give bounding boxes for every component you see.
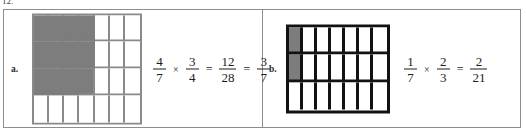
grid-cell: [317, 55, 331, 83]
multiply-operator-b: ×: [418, 63, 436, 74]
grid-cell: [110, 42, 125, 69]
grid-cell: [373, 82, 387, 110]
grid-cell: [79, 69, 94, 96]
fraction-a-factor1: 4 7: [153, 54, 166, 83]
grid-cell: [79, 95, 94, 122]
grid-cell: [331, 82, 345, 110]
grid-cell: [317, 82, 331, 110]
grid-cell: [303, 55, 317, 83]
numerator: 3: [187, 54, 198, 68]
problem-number: 12.: [2, 0, 13, 6]
denominator: 4: [187, 69, 198, 83]
grid-cell: [373, 55, 387, 83]
grid-cell: [289, 27, 303, 55]
grid-cell: [34, 69, 49, 96]
grid-cell: [34, 95, 49, 122]
grid-cell: [303, 27, 317, 55]
grid-cell: [79, 42, 94, 69]
equals-sign-b-1: =: [451, 61, 470, 76]
fraction-model-grid-b: [286, 24, 390, 113]
numerator: 2: [474, 54, 485, 68]
grid-cell: [317, 27, 331, 55]
multiply-operator-a: ×: [167, 63, 185, 74]
grid-cell: [289, 82, 303, 110]
grid-cell: [49, 95, 64, 122]
grid-cell: [34, 15, 49, 42]
grid-cell: [359, 55, 373, 83]
panel-b: b. 1 7 × 2 3 = 2 21: [263, 10, 520, 127]
equation-a: 4 7 × 3 4 = 12 28 = 3 7: [152, 54, 271, 83]
grid-cell: [303, 82, 317, 110]
denominator: 3: [438, 69, 449, 83]
grid-cell: [125, 15, 140, 42]
exercise-box: a. 4 7 × 3 4 = 12 28 = 3: [3, 9, 521, 128]
denominator: 28: [219, 69, 236, 83]
fraction-a-factor2: 3 4: [186, 54, 199, 83]
grid-cell: [359, 27, 373, 55]
grid-cell: [95, 42, 110, 69]
grid-cell: [95, 69, 110, 96]
grid-cell: [64, 15, 79, 42]
denominator: 7: [405, 69, 416, 83]
grid-cell: [95, 95, 110, 122]
equals-sign-a-2: =: [237, 61, 256, 76]
panel-b-label: b.: [269, 64, 277, 74]
grid-cell: [64, 69, 79, 96]
numerator: 1: [405, 54, 416, 68]
grid-cell: [125, 69, 140, 96]
grid-cell: [110, 15, 125, 42]
grid-cell: [64, 95, 79, 122]
grid-cell: [125, 42, 140, 69]
grid-cell: [49, 42, 64, 69]
grid-cell: [34, 42, 49, 69]
grid-cell: [49, 69, 64, 96]
grid-cell: [79, 15, 94, 42]
fraction-a-product: 12 28: [219, 54, 236, 83]
grid-cell: [289, 55, 303, 83]
grid-cell: [373, 27, 387, 55]
equals-sign-a-1: =: [200, 61, 219, 76]
panel-a: a. 4 7 × 3 4 = 12 28 = 3: [4, 10, 262, 127]
grid-cell: [95, 15, 110, 42]
grid-cell: [331, 27, 345, 55]
numerator: 4: [154, 54, 165, 68]
grid-cell: [64, 42, 79, 69]
grid-cell: [125, 95, 140, 122]
grid-cell: [110, 69, 125, 96]
grid-cell: [110, 95, 125, 122]
grid-cell: [345, 27, 359, 55]
grid-cell: [345, 55, 359, 83]
denominator: 7: [154, 69, 165, 83]
fraction-b-factor1: 1 7: [404, 54, 417, 83]
fraction-b-factor2: 2 3: [437, 54, 450, 83]
denominator: 21: [470, 69, 487, 83]
grid-cell: [359, 82, 373, 110]
equation-b: 1 7 × 2 3 = 2 21: [403, 54, 488, 83]
grid-cell: [345, 82, 359, 110]
numerator: 2: [438, 54, 449, 68]
grid-cell: [331, 55, 345, 83]
fraction-model-grid-a: [32, 13, 142, 124]
grid-cell: [49, 15, 64, 42]
numerator: 12: [219, 54, 236, 68]
fraction-b-product: 2 21: [470, 54, 487, 83]
panel-a-label: a.: [11, 64, 18, 74]
